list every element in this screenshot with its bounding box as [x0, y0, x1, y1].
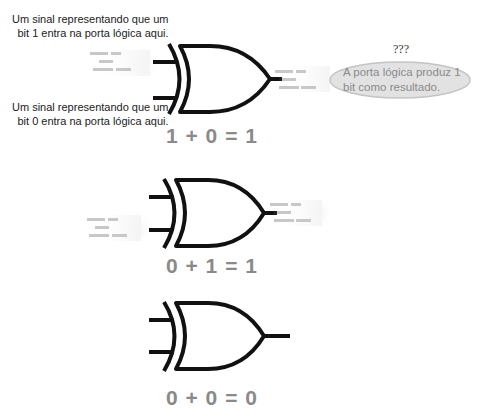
equation-gate-3: 0 + 0 = 0	[166, 386, 258, 410]
result-bubble-line2: bit como resultado.	[343, 80, 461, 95]
input-bit0-label-line1: Um sinal representando que um	[12, 100, 169, 114]
output-signal-icon	[270, 197, 334, 229]
input-bit1-label-line2: bit 1 entra na porta lógica aqui.	[12, 26, 169, 40]
result-bubble-line1: A porta lógica produz 1	[343, 65, 461, 80]
output-signal-icon	[275, 66, 330, 92]
input-bit0-label-line2: bit 0 entra na porta lógica aqui.	[12, 114, 169, 128]
equation-gate-2: 0 + 1 = 1	[166, 254, 258, 278]
result-bubble-text: A porta lógica produz 1 bit como resulta…	[343, 65, 461, 95]
equation-gate-1: 1 + 0 = 1	[166, 124, 258, 148]
input-bit1-label-line1: Um sinal representando que um	[12, 12, 169, 26]
input-bit0-label: Um sinal representando que um bit 0 entr…	[12, 100, 169, 128]
diagram-canvas	[0, 0, 487, 419]
xor-gate-3	[149, 302, 290, 371]
input-bit1-label: Um sinal representando que um bit 1 entr…	[12, 12, 169, 40]
question-marks: ???	[393, 42, 409, 57]
input-signal-icon	[86, 211, 154, 245]
xor-gate-2	[86, 179, 334, 248]
input-signal-icon	[90, 45, 160, 81]
